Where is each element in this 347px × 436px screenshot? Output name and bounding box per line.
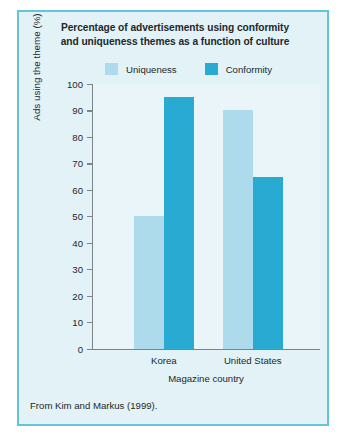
y-axis-title: Ads using the theme (%) (31, 0, 42, 142)
legend-entry-uniqueness: Uniqueness (105, 63, 177, 75)
y-axis-tick-label: 50 (72, 211, 83, 222)
legend-swatch-conformity (205, 63, 218, 75)
y-axis-tick (87, 269, 92, 270)
y-axis-tick (87, 110, 92, 111)
y-axis-tick-label: 30 (72, 264, 83, 275)
chart-legend: Uniqueness Conformity (105, 61, 272, 77)
y-axis-tick (87, 349, 92, 350)
legend-label-uniqueness: Uniqueness (126, 64, 177, 75)
x-axis-title: Magazine country (92, 373, 320, 384)
legend-label-conformity: Conformity (226, 64, 272, 75)
x-axis-category-label: United States (224, 355, 282, 366)
y-axis-tick (87, 216, 92, 217)
chart-title: Percentage of advertisements using confo… (33, 21, 317, 49)
bar-united-states-uniqueness (223, 110, 253, 348)
figure: Percentage of advertisements using confo… (0, 0, 347, 436)
chart-panel-inner: Percentage of advertisements using confo… (19, 12, 327, 424)
y-axis-tick (87, 322, 92, 323)
bar-korea-conformity (164, 97, 194, 348)
bar-united-states-conformity (253, 177, 283, 349)
y-axis-tick-label: 20 (72, 290, 83, 301)
y-axis-tick-label: 0 (78, 343, 83, 354)
chart-title-line-2: and uniqueness themes as a function of c… (33, 35, 317, 49)
y-axis-tick-label: 10 (72, 317, 83, 328)
plot-inner: 0102030405060708090100KoreaUnited States (92, 84, 320, 350)
y-axis-tick-label: 90 (72, 105, 83, 116)
y-axis-tick-label: 80 (72, 131, 83, 142)
y-axis-tick (87, 190, 92, 191)
y-axis-tick-label: 70 (72, 158, 83, 169)
legend-entry-conformity: Conformity (205, 63, 272, 75)
y-axis-tick (87, 84, 92, 85)
chart-title-line-1: Percentage of advertisements using confo… (33, 21, 317, 35)
y-axis-tick (87, 243, 92, 244)
y-axis-tick (87, 296, 92, 297)
bar-korea-uniqueness (134, 216, 164, 348)
legend-swatch-uniqueness (105, 63, 118, 75)
y-axis-line (92, 84, 93, 350)
x-axis-category-label: Korea (151, 355, 177, 366)
source-note: From Kim and Markus (1999). (30, 400, 157, 411)
y-axis-tick-label: 60 (72, 184, 83, 195)
y-axis-tick-label: 100 (67, 79, 83, 90)
y-axis-tick-label: 40 (72, 237, 83, 248)
y-axis-tick (87, 137, 92, 138)
x-axis-line (92, 349, 320, 350)
chart-panel: Percentage of advertisements using confo… (17, 10, 329, 426)
plot-area: 0102030405060708090100KoreaUnited States (92, 84, 320, 350)
y-axis-tick (87, 163, 92, 164)
